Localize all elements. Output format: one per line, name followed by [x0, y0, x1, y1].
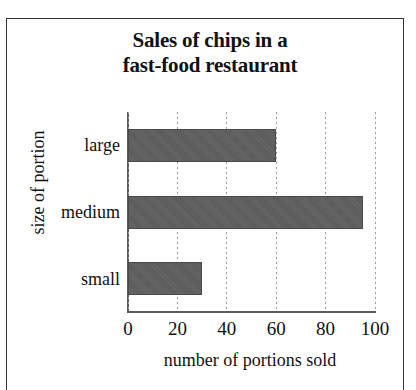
bar-small — [128, 262, 202, 295]
bar-medium — [128, 196, 363, 229]
y-category-label-medium: medium — [61, 202, 120, 222]
y-category-label-small: small — [81, 269, 120, 289]
chart-title-line-2: fast-food restaurant — [30, 53, 390, 78]
chart-title-line-1: Sales of chips in a — [30, 28, 390, 53]
y-axis-title: size of portion — [28, 93, 49, 273]
x-tick-label-40: 40 — [203, 318, 251, 340]
chart-title: Sales of chips in a fast-food restaurant — [30, 28, 390, 78]
x-axis-title: number of portions sold — [90, 350, 410, 371]
x-tick-label-20: 20 — [153, 318, 201, 340]
x-tick-label-0: 0 — [104, 318, 152, 340]
gridline-100 — [375, 112, 376, 312]
x-tick-label-80: 80 — [302, 318, 350, 340]
x-tick-label-100: 100 — [351, 318, 399, 340]
bar-large — [128, 129, 276, 162]
y-category-label-large: large — [84, 135, 120, 155]
x-axis-line — [127, 311, 376, 313]
x-tick-label-60: 60 — [252, 318, 300, 340]
